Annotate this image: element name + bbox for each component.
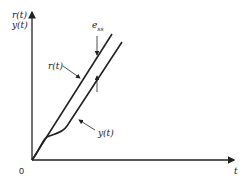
diagram-plot — [0, 0, 250, 181]
y-axis-label-r: r(t) — [12, 10, 27, 20]
ess-sub: ss — [97, 25, 103, 32]
ramp-response-diagram: r(t) y(t) r(t) y(t) ess 0 t — [0, 0, 250, 181]
r-leader-arrow — [63, 66, 80, 78]
origin-label: 0 — [19, 166, 24, 176]
y-curve-label: y(t) — [98, 128, 114, 138]
y-leader-arrow — [79, 120, 95, 130]
y-axis-label-y: y(t) — [12, 20, 28, 30]
y-curve — [32, 42, 122, 160]
r-curve-label: r(t) — [48, 61, 63, 71]
x-axis-label: t — [234, 166, 238, 176]
ess-label: ess — [92, 20, 104, 34]
